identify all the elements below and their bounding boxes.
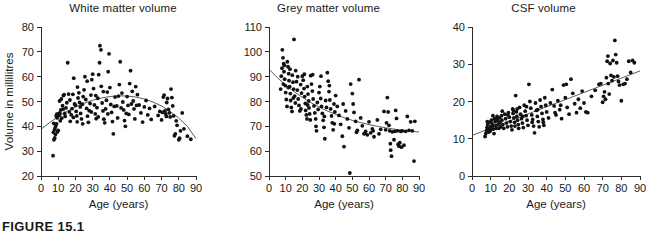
svg-text:30: 30 xyxy=(313,182,325,194)
chart-panel-white-matter: White matter volume 20304050607080010203… xyxy=(0,0,210,231)
svg-text:60: 60 xyxy=(22,71,34,83)
svg-text:80: 80 xyxy=(22,21,34,33)
svg-text:50: 50 xyxy=(559,182,571,194)
svg-text:Age (years): Age (years) xyxy=(526,198,586,210)
svg-text:20: 20 xyxy=(503,182,515,194)
svg-text:110: 110 xyxy=(244,21,262,33)
svg-text:50: 50 xyxy=(121,182,133,194)
svg-text:0: 0 xyxy=(469,182,475,194)
svg-text:60: 60 xyxy=(363,182,375,194)
svg-text:20: 20 xyxy=(453,96,465,108)
svg-text:70: 70 xyxy=(597,182,609,194)
svg-text:90: 90 xyxy=(250,71,262,83)
svg-text:80: 80 xyxy=(173,182,185,194)
svg-text:50: 50 xyxy=(250,170,262,182)
svg-text:Volume in millilitres: Volume in millilitres xyxy=(3,52,15,150)
svg-text:20: 20 xyxy=(296,182,308,194)
svg-text:80: 80 xyxy=(250,96,262,108)
svg-text:30: 30 xyxy=(522,182,534,194)
svg-text:70: 70 xyxy=(250,120,262,132)
svg-text:100: 100 xyxy=(244,46,262,58)
svg-text:90: 90 xyxy=(190,182,202,194)
svg-text:Age (years): Age (years) xyxy=(89,198,149,210)
chart-panel-csf: CSF volume 0102030400102030405060708090A… xyxy=(428,0,651,231)
svg-text:30: 30 xyxy=(453,58,465,70)
svg-text:0: 0 xyxy=(459,170,465,182)
svg-text:90: 90 xyxy=(634,182,646,194)
svg-text:30: 30 xyxy=(87,182,99,194)
scatter-plot-white-matter: 203040506070800102030405060708090Age (ye… xyxy=(0,0,210,231)
svg-text:20: 20 xyxy=(22,170,34,182)
svg-text:10: 10 xyxy=(52,182,64,194)
svg-text:20: 20 xyxy=(69,182,81,194)
svg-text:40: 40 xyxy=(22,120,34,132)
svg-text:70: 70 xyxy=(155,182,167,194)
svg-text:80: 80 xyxy=(615,182,627,194)
svg-text:60: 60 xyxy=(138,182,150,194)
svg-text:50: 50 xyxy=(346,182,358,194)
svg-text:60: 60 xyxy=(250,145,262,157)
figure-caption: FIGURE 15.1 xyxy=(2,219,84,231)
svg-text:Age (years): Age (years) xyxy=(314,198,374,210)
svg-text:70: 70 xyxy=(380,182,392,194)
svg-text:50: 50 xyxy=(22,96,34,108)
svg-text:10: 10 xyxy=(485,182,497,194)
svg-text:90: 90 xyxy=(413,182,425,194)
chart-panel-grey-matter: Grey matter volume 506070809010011001020… xyxy=(212,0,425,231)
scatter-plot-csf: 0102030400102030405060708090Age (years) xyxy=(428,0,651,231)
svg-text:0: 0 xyxy=(38,182,44,194)
svg-text:40: 40 xyxy=(541,182,553,194)
svg-text:10: 10 xyxy=(453,133,465,145)
figure-container: White matter volume 20304050607080010203… xyxy=(0,0,651,231)
svg-text:60: 60 xyxy=(578,182,590,194)
scatter-plot-grey-matter: 50607080901001100102030405060708090Age (… xyxy=(212,0,425,231)
svg-text:80: 80 xyxy=(396,182,408,194)
svg-text:10: 10 xyxy=(280,182,292,194)
svg-text:40: 40 xyxy=(330,182,342,194)
svg-text:40: 40 xyxy=(104,182,116,194)
svg-text:40: 40 xyxy=(453,21,465,33)
svg-text:0: 0 xyxy=(266,182,272,194)
svg-text:30: 30 xyxy=(22,145,34,157)
svg-text:70: 70 xyxy=(22,46,34,58)
